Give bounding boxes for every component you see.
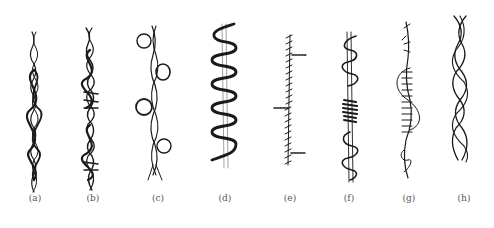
panel-label-c: (c) xyxy=(152,193,164,203)
panel-label-d: (d) xyxy=(219,193,232,203)
yarn-drawings xyxy=(0,0,494,228)
panel-e-drawing xyxy=(274,35,306,165)
panel-label-f: (f) xyxy=(344,193,354,203)
panel-label-e: (e) xyxy=(284,193,296,203)
panel-label-g: (g) xyxy=(403,193,416,203)
panel-label-h: (h) xyxy=(458,193,471,203)
yarn-structure-figure: (a) (b) (c) (d) (e) (f) (g) (h) xyxy=(0,0,494,228)
panel-label-b: (b) xyxy=(87,193,100,203)
panel-f-drawing xyxy=(342,32,358,182)
panel-c-drawing xyxy=(136,26,171,180)
panel-g-drawing xyxy=(397,22,420,178)
panel-h-drawing xyxy=(452,16,467,162)
panel-d-drawing xyxy=(212,24,236,168)
panel-label-a: (a) xyxy=(29,193,41,203)
panel-a-drawing xyxy=(27,32,42,192)
panel-b-drawing xyxy=(82,28,98,190)
